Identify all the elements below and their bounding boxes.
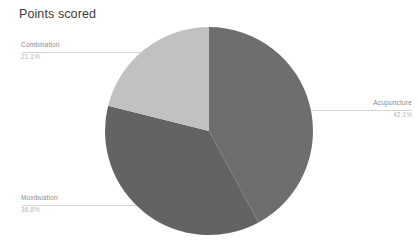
slice-percent-acupuncture: 42.1% [373,111,412,119]
slice-percent-combination: 21.1% [21,53,60,61]
slice-percent-moxibustion: 36.8% [21,206,58,214]
slice-label-combination: Combination [21,41,60,49]
slice-callout-moxibustion: Moxibustion 36.8% [21,194,58,214]
slice-label-acupuncture: Acupuncture [373,99,412,107]
slice-callout-combination: Combination 21.1% [21,41,60,61]
pie-slice-group [105,27,313,235]
slice-label-moxibustion: Moxibustion [21,194,58,202]
slice-callout-acupuncture: Acupuncture 42.1% [373,99,412,119]
pie-chart-figure: Points scored Combination 21.1% Moxibust… [0,0,418,247]
pie-chart-canvas [0,0,418,247]
